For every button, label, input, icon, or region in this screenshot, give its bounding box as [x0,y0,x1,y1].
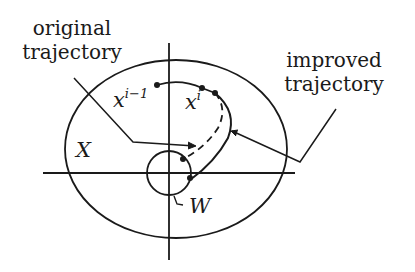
point-prev-sup: i−1 [125,86,148,101]
original-trajectory-label: original trajectory [16,18,128,62]
improved-trajectory-label: improved trajectory [278,50,390,94]
point-prev-base: x [113,88,125,112]
point-cur-base: x [185,90,197,114]
set-w-label: W [189,196,211,217]
original-label-line1: original [16,18,128,38]
w-leader-line [174,196,183,205]
set-x-label: X [76,140,91,161]
dashed-end-dot [180,156,186,162]
improved-leader-arrowhead [231,130,238,136]
improved-label-line2: trajectory [278,74,390,94]
point-cur-label: xi [185,92,201,113]
original-leader-arrowhead [188,142,196,149]
point-next-dot [212,90,218,96]
improved-label-line1: improved [278,50,390,70]
original-label-line2: trajectory [16,42,128,62]
improved-leader-line [232,109,336,162]
set-x-ellipse [65,60,287,238]
point-prev-dot [154,82,160,88]
point-prev-label: xi−1 [113,90,148,111]
point-cur-sup: i [197,88,201,103]
improved-end-dot [187,175,193,181]
